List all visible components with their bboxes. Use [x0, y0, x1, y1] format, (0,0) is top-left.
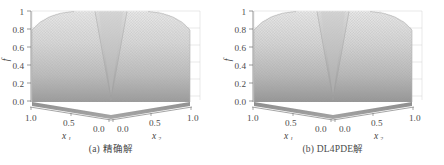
x2-tick-label-05-a: 0.5 — [149, 118, 161, 128]
surface-plot-a-svg: 1 0.8 0.6 0.4 0.2 0.0 f 1.0 0.5 0.0 — [0, 0, 222, 140]
figure-container: 1 0.8 0.6 0.4 0.2 0.0 f 1.0 0.5 0.0 — [0, 0, 444, 165]
x2-axis-label-a: x 2 — [151, 131, 161, 140]
panel-a-exact-solution: 1 0.8 0.6 0.4 0.2 0.0 f 1.0 0.5 0.0 — [0, 0, 222, 165]
z-axis-label-f-a: f — [1, 57, 11, 61]
x2-axis-label-sub-b: 2 — [380, 135, 383, 141]
x2-tick-label-05-b: 0.5 — [371, 118, 383, 128]
x2-axis-label-sub-a: 2 — [158, 135, 161, 141]
z-tick-label-02-b: 0.2 — [235, 79, 247, 89]
x1-axis-label-base-a: x — [61, 131, 67, 140]
x1-axis-label-a: x 1 — [61, 131, 71, 140]
x2-tick-label-00-b: 0.0 — [339, 124, 351, 134]
x2-tick-label-10-a: 1.0 — [187, 113, 199, 123]
z-tick-label-00-b: 0.0 — [235, 97, 247, 107]
z-tick-label-08-b: 0.8 — [235, 25, 247, 35]
caption-panel-a: (a) 精确解 — [0, 141, 222, 155]
z-tick-label-00: 0.0 — [13, 97, 25, 107]
x1-tick-label-00-b: 0.0 — [315, 124, 327, 134]
x1-tick-label-00-a: 0.0 — [93, 124, 105, 134]
x1-tick-label-05-b: 0.5 — [285, 118, 297, 128]
plot-a-surface-3d: 1 0.8 0.6 0.4 0.2 0.0 f 1.0 0.5 0.0 — [0, 0, 222, 140]
plot-b-surface-3d: 1 0.8 0.6 0.4 0.2 0.0 f 1.0 0.5 0.0 — [222, 0, 444, 140]
x1-axis-label-base-b: x — [283, 131, 289, 140]
z-tick-label-04: 0.4 — [13, 61, 25, 71]
x1-axis-label-sub-a: 1 — [68, 135, 71, 141]
z-tick-label-06: 0.6 — [13, 43, 25, 53]
z-tick-label-1: 1 — [19, 7, 24, 17]
x1-axis-label-b: x 1 — [283, 131, 293, 140]
x2-axis-label-base-b: x — [373, 131, 379, 140]
x2-axis-label-b: x 2 — [373, 131, 383, 140]
x2-tick-label-10-b: 1.0 — [409, 113, 421, 123]
z-ticks-a — [27, 11, 31, 101]
z-tick-label-08: 0.8 — [13, 25, 25, 35]
z-axis-label-f-b: f — [223, 57, 233, 61]
x1-axis-label-sub-b: 1 — [290, 135, 293, 141]
x1-tick-label-05-a: 0.5 — [63, 118, 75, 128]
panel-b-dl4pde-solution: 1 0.8 0.6 0.4 0.2 0.0 f 1.0 0.5 0.0 — [222, 0, 444, 165]
x1-tick-label-10-a: 1.0 — [25, 113, 37, 123]
z-tick-label-02: 0.2 — [13, 79, 25, 89]
z-ticks-b — [249, 11, 253, 101]
x2-axis-label-base-a: x — [151, 131, 157, 140]
x1-tick-label-10-b: 1.0 — [247, 113, 259, 123]
z-tick-label-1-b: 1 — [241, 7, 246, 17]
base-plane-b — [254, 102, 412, 119]
z-tick-label-06-b: 0.6 — [235, 43, 247, 53]
z-tick-label-04-b: 0.4 — [235, 61, 247, 71]
base-plane-a — [32, 102, 190, 119]
caption-panel-b: (b) DL4PDE解 — [222, 141, 444, 155]
x2-tick-label-00-a: 0.0 — [117, 124, 129, 134]
surface-plot-b-svg: 1 0.8 0.6 0.4 0.2 0.0 f 1.0 0.5 0.0 — [222, 0, 444, 140]
